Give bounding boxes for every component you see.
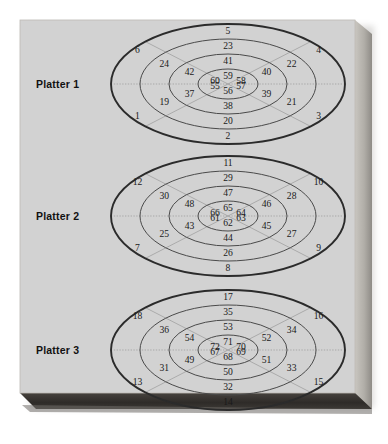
block-top-47: 47 [223,187,233,198]
block-right-upper-22: 22 [287,58,297,69]
block-right-upper-16: 16 [314,310,324,321]
block-left-lower-49: 49 [185,354,195,365]
block-top-41: 41 [223,55,233,66]
block-left-upper-6: 6 [135,44,140,55]
block-top-65: 65 [223,202,233,213]
block-right-lower-39: 39 [262,88,272,99]
block-bottom-32: 32 [223,381,233,392]
block-left-upper-48: 48 [185,198,195,209]
block-top-5: 5 [226,25,231,36]
block-bottom-14: 14 [223,396,233,407]
block-right-upper-40: 40 [262,66,272,77]
block-top-71: 71 [223,336,233,347]
block-left-lower-7: 7 [135,242,140,253]
block-left-upper-42: 42 [185,66,195,77]
block-bottom-68: 68 [223,351,233,362]
block-bottom-50: 50 [223,366,233,377]
block-bottom-20: 20 [223,115,233,126]
block-bottom-44: 44 [223,232,233,243]
block-top-35: 35 [223,306,233,317]
platter-2-label: Platter 2 [36,210,79,222]
block-right-upper-10: 10 [314,176,324,187]
block-bottom-26: 26 [223,247,233,258]
block-top-59: 59 [223,70,233,81]
block-top-23: 23 [223,40,233,51]
block-right-upper-28: 28 [287,190,297,201]
block-left-upper-24: 24 [160,58,170,69]
block-right-lower-69: 69 [236,346,246,357]
block-left-lower-61: 61 [210,212,220,223]
block-right-lower-15: 15 [314,376,324,387]
block-left-lower-19: 19 [160,96,170,107]
platter-3-label: Platter 3 [36,344,79,356]
block-right-lower-45: 45 [262,220,272,231]
block-left-lower-55: 55 [210,80,220,91]
block-right-lower-33: 33 [287,362,297,373]
block-left-lower-13: 13 [133,376,143,387]
block-right-upper-4: 4 [316,44,321,55]
block-right-lower-57: 57 [236,80,246,91]
block-right-lower-3: 3 [316,110,321,121]
block-right-lower-63: 63 [236,212,246,223]
block-bottom-56: 56 [223,85,233,96]
block-top-53: 53 [223,321,233,332]
block-left-upper-30: 30 [160,190,170,201]
block-right-upper-34: 34 [287,324,297,335]
block-left-upper-36: 36 [160,324,170,335]
block-left-lower-1: 1 [135,110,140,121]
block-right-upper-46: 46 [262,198,272,209]
platter-1-label: Platter 1 [36,78,79,90]
block-right-lower-27: 27 [287,228,297,239]
block-left-lower-67: 67 [210,346,220,357]
block-right-lower-21: 21 [287,96,297,107]
block-left-lower-43: 43 [185,220,195,231]
block-right-lower-9: 9 [316,242,321,253]
disk-platter-figure: 5234159220385662442601193755422405832139… [0,0,388,444]
figure-canvas: 5234159220385662442601193755422405832139… [0,0,388,444]
block-left-upper-12: 12 [133,176,143,187]
block-right-lower-51: 51 [262,354,272,365]
block-left-upper-18: 18 [133,310,143,321]
block-left-upper-54: 54 [185,332,195,343]
block-left-lower-31: 31 [160,362,170,373]
slab-right-side [355,20,372,409]
block-left-lower-25: 25 [160,228,170,239]
block-bottom-62: 62 [223,217,233,228]
block-right-upper-52: 52 [262,332,272,343]
block-bottom-8: 8 [226,262,231,273]
block-top-29: 29 [223,172,233,183]
block-top-11: 11 [223,157,232,168]
block-bottom-38: 38 [223,100,233,111]
block-left-lower-37: 37 [185,88,195,99]
block-bottom-2: 2 [226,130,231,141]
block-top-17: 17 [223,291,233,302]
